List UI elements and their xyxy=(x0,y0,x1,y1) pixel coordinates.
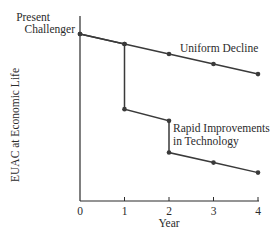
uniform-decline-label: Uniform Decline xyxy=(180,42,258,54)
x-axis-label: Year xyxy=(158,217,179,229)
x-tick-label: 4 xyxy=(255,205,261,217)
series-uniform-decline xyxy=(78,32,261,77)
rapid-improvements-point xyxy=(211,160,216,165)
x-tick-label: 1 xyxy=(122,205,128,217)
rapid-improvements-point xyxy=(122,107,127,112)
rapid-improvements-point xyxy=(256,170,261,175)
labels: Present Challenger Uniform Decline Rapid… xyxy=(9,11,270,229)
rapid-improvements-point xyxy=(167,119,172,124)
y-axis-label: EUAC at Economic Life xyxy=(9,68,21,182)
rapid-improvements-point xyxy=(122,42,127,47)
rapid-improvements-point xyxy=(167,150,172,155)
uniform-decline-point xyxy=(167,52,172,57)
x-tick-label: 0 xyxy=(77,205,83,217)
x-tick-label: 2 xyxy=(166,205,172,217)
x-tick-label: 3 xyxy=(211,205,217,217)
start-label-line1: Present xyxy=(16,11,51,23)
x-ticks: 01234 xyxy=(77,197,261,217)
rapid-label-line2: in Technology xyxy=(173,135,239,148)
uniform-decline-point xyxy=(211,62,216,67)
chart: 01234 Present Challenger Uniform Decline… xyxy=(0,0,271,243)
uniform-decline-point xyxy=(256,72,261,77)
start-label-line2: Challenger xyxy=(25,23,76,36)
rapid-improvements-point xyxy=(78,32,83,37)
rapid-label-line1: Rapid Improvements xyxy=(173,122,270,135)
